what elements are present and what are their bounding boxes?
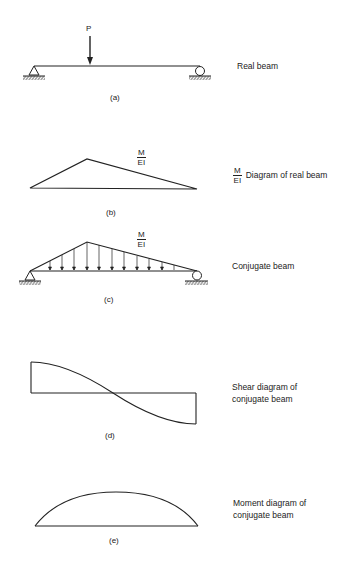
panel-d-caption: (d)	[105, 431, 115, 440]
pin-support-icon	[19, 271, 41, 285]
panel-a-caption: (a)	[110, 93, 120, 102]
distributed-load-arrows-icon	[49, 242, 175, 270]
panel-b-caption: (b)	[106, 208, 116, 217]
panel-a-real-beam	[23, 36, 211, 80]
panel-d-label-line1: Shear diagram of	[232, 382, 297, 393]
load-label-p: P	[86, 24, 91, 33]
fraction-denominator: EI	[138, 158, 146, 167]
panel-b-label-text: Diagram of real beam	[246, 170, 328, 181]
figure-canvas	[0, 0, 354, 568]
point-load-arrow-icon	[87, 36, 93, 65]
panel-c-caption: (c)	[104, 295, 113, 304]
fraction-denominator: EI	[234, 176, 242, 185]
panel-c-label: Conjugate beam	[232, 261, 294, 272]
fraction-denominator: EI	[138, 240, 146, 249]
label-fraction: M EI	[233, 166, 242, 185]
panel-e-label-line1: Moment diagram of	[233, 498, 306, 509]
triangle-diagram	[30, 159, 197, 189]
panel-b-diagram-fraction: M EI	[137, 148, 146, 167]
fraction-numerator: M	[137, 230, 146, 240]
moment-curve	[35, 492, 198, 526]
panel-c-conjugate-beam	[19, 242, 208, 285]
roller-support-icon	[189, 67, 211, 81]
panel-a-label: Real beam	[237, 61, 278, 72]
fraction-numerator: M	[137, 148, 146, 158]
panel-b-m-ei-diagram	[30, 159, 197, 189]
panel-d-label-line2: conjugate beam	[232, 394, 293, 405]
panel-e-caption: (e)	[109, 536, 119, 545]
pin-support-icon	[23, 66, 45, 80]
panel-c-diagram-fraction: M EI	[137, 230, 146, 249]
panel-d-shear-diagram	[31, 362, 196, 424]
panel-e-label-line2: conjugate beam	[233, 510, 294, 521]
panel-b-label: M EI Diagram of real beam	[233, 166, 327, 185]
panel-e-moment-diagram	[35, 492, 198, 526]
fraction-numerator: M	[233, 166, 242, 176]
roller-support-icon	[185, 271, 208, 285]
